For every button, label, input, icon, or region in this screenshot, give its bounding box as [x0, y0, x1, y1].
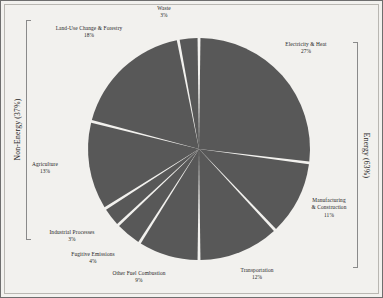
slice-label-other-fuel-name: Other Fuel Combustion [112, 270, 165, 276]
slice-label-transportation: Transportation 12% [223, 267, 291, 282]
slice-label-fugitive-name: Fugitive Emissions [71, 251, 114, 257]
slice-label-landuse-name: Land-Use Change & Forestry [56, 25, 123, 31]
slice-label-electricity-name: Electricity & Heat [285, 41, 326, 47]
slice-label-other-fuel-combustion: Other Fuel Combustion 9% [95, 270, 183, 285]
slice-label-agriculture-name: Agriculture [32, 161, 58, 167]
slice-label-transportation-pct: 12% [223, 274, 291, 281]
slice-label-waste-name: Waste [157, 5, 171, 11]
pie-chart-figure: Waste 3% Land-Use Change & Forestry 18% … [0, 0, 383, 298]
slice-label-electricity-pct: 27% [271, 48, 341, 55]
slice-label-land-use-change-forestry: Land-Use Change & Forestry 18% [31, 25, 147, 40]
slice-label-waste-pct: 3% [144, 12, 184, 19]
slice-label-fugitive-emissions: Fugitive Emissions 4% [57, 251, 129, 266]
pie-slices [88, 38, 310, 260]
energy-group-label: Energy (63%) [362, 129, 371, 183]
slice-label-electricity-heat: Electricity & Heat 27% [271, 41, 341, 56]
slice-label-other-fuel-pct: 9% [95, 277, 183, 284]
slice-label-industrial-pct: 3% [35, 236, 109, 243]
slice-label-manufacturing-line1: Manufacturing [312, 197, 345, 203]
slice-label-agriculture-pct: 13% [14, 168, 76, 175]
slice-label-industrial-processes: Industrial Processes 3% [35, 229, 109, 244]
slice-label-fugitive-pct: 4% [57, 258, 129, 265]
slice-label-manufacturing-construction: Manufacturing & Construction 11% [298, 197, 360, 219]
slice-label-transportation-name: Transportation [240, 267, 273, 273]
slice-label-landuse-pct: 18% [31, 32, 147, 39]
slice-label-manufacturing-line2: & Construction [298, 204, 360, 211]
pie-slice [199, 38, 310, 161]
slice-label-industrial-name: Industrial Processes [49, 229, 94, 235]
slice-label-agriculture: Agriculture 13% [14, 161, 76, 176]
non-energy-bracket [26, 20, 31, 240]
slice-label-waste: Waste 3% [144, 5, 184, 20]
energy-bracket [353, 42, 358, 268]
slice-label-manufacturing-pct: 11% [298, 212, 360, 219]
non-energy-group-label: Non-Energy (37%) [13, 92, 22, 168]
